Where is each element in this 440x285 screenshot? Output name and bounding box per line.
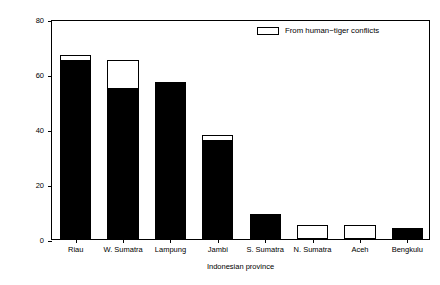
x-tick-mark: [313, 239, 314, 243]
legend-swatch-conflict-icon: [257, 27, 279, 35]
x-tick-mark: [360, 239, 361, 243]
bar-aceh[interactable]: [344, 225, 375, 239]
bar-n-sumatra[interactable]: [297, 225, 328, 239]
x-tick-mark: [218, 239, 219, 243]
y-tick-mark: [48, 241, 52, 242]
bar-segment-nonconflict: [202, 140, 233, 239]
y-tick-mark: [48, 131, 52, 132]
x-tick-mark: [76, 239, 77, 243]
x-tick-label: W. Sumatra: [103, 245, 142, 254]
bar-segment-total: [297, 225, 328, 239]
bar-riau[interactable]: [60, 55, 91, 239]
bar-segment-nonconflict: [155, 82, 186, 239]
bar-segment-total: [344, 225, 375, 239]
x-tick-label: Bengkulu: [392, 245, 423, 254]
x-tick-mark: [265, 239, 266, 243]
y-tick-label: 0: [22, 236, 44, 245]
bar-segment-nonconflict: [60, 60, 91, 239]
bar-bengkulu[interactable]: [392, 228, 423, 239]
bar-segment-nonconflict: [107, 88, 138, 239]
x-tick-mark: [407, 239, 408, 243]
bar-segment-nonconflict: [392, 228, 423, 239]
x-tick-mark: [170, 239, 171, 243]
bar-s-sumatra[interactable]: [250, 214, 281, 239]
bar-jambi[interactable]: [202, 135, 233, 240]
y-tick-label: 20: [22, 181, 44, 190]
x-axis-title: Indonesian province: [51, 262, 430, 271]
y-tick-mark: [48, 186, 52, 187]
x-tick-label: Riau: [68, 245, 83, 254]
y-tick-label: 40: [22, 126, 44, 135]
x-tick-label: N. Sumatra: [294, 245, 332, 254]
x-tick-mark: [123, 239, 124, 243]
y-tick-label: 80: [22, 16, 44, 25]
plot-area: Number of tigers killed or captured 0204…: [51, 20, 430, 240]
legend-label-conflict: From human−tiger conflicts: [285, 26, 379, 35]
y-tick-mark: [48, 21, 52, 22]
x-tick-label: S. Sumatra: [246, 245, 284, 254]
bar-lampung[interactable]: [155, 82, 186, 239]
x-tick-label: Jambi: [208, 245, 228, 254]
bar-chart-figure: Number of tigers killed or captured 0204…: [0, 0, 440, 285]
bar-segment-nonconflict: [250, 214, 281, 239]
bar-w-sumatra[interactable]: [107, 60, 138, 239]
x-tick-label: Aceh: [351, 245, 368, 254]
x-tick-label: Lampung: [155, 245, 186, 254]
chart-legend: From human−tiger conflicts: [257, 26, 379, 35]
y-tick-mark: [48, 76, 52, 77]
y-tick-label: 60: [22, 71, 44, 80]
